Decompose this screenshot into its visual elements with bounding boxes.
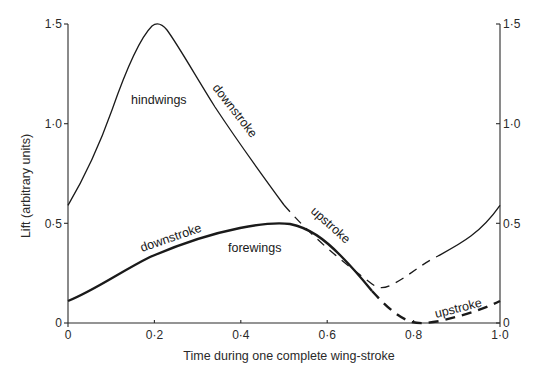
y-tick-right-1-5: 1·5 — [503, 17, 521, 31]
y-tick-labels-left: 0 0·5 1·0 1·5 — [45, 17, 63, 330]
forewings-downstroke-label: downstroke — [138, 221, 203, 255]
x-tick-1-0: 1·0 — [491, 328, 509, 342]
x-tick-labels: 0 0·2 0·4 0·6 0·8 1·0 — [65, 328, 509, 342]
y-axis-title: Lift (arbitrary units) — [19, 134, 33, 238]
y-tick-labels-right: 0 0·5 1·0 1·5 — [503, 17, 521, 330]
x-tick-0-6: 0·6 — [319, 328, 337, 342]
hindwings-upstroke-curve — [284, 205, 438, 288]
x-tick-0-8: 0·8 — [405, 328, 423, 342]
hindwings-upstroke-label: upstroke — [308, 204, 353, 247]
hindwings-downstroke-curve — [68, 24, 284, 205]
y-tick-1-5: 1·5 — [45, 17, 63, 31]
x-tick-0-4: 0·4 — [232, 328, 250, 342]
lift-chart: 0 0·5 1·0 1·5 0 0·5 1·0 1·5 0 0·2 0·4 0·… — [0, 0, 541, 376]
hindwings-return-curve — [438, 205, 500, 256]
forewings-label: forewings — [228, 241, 282, 255]
y-tick-0-5: 0·5 — [45, 217, 63, 231]
x-tick-0: 0 — [65, 328, 72, 342]
axes — [64, 24, 500, 327]
hindwings-label: hindwings — [131, 93, 187, 107]
x-axis-title: Time during one complete wing-stroke — [183, 349, 394, 363]
y-tick-right-0-5: 0·5 — [503, 217, 521, 231]
forewings-downstroke-curve — [68, 223, 372, 301]
y-tick-1-0: 1·0 — [45, 117, 63, 131]
forewings-upstroke-label: upstroke — [433, 296, 483, 321]
y-tick-0: 0 — [55, 316, 62, 330]
x-tick-0-2: 0·2 — [146, 328, 164, 342]
y-tick-right-1-0: 1·0 — [503, 117, 521, 131]
